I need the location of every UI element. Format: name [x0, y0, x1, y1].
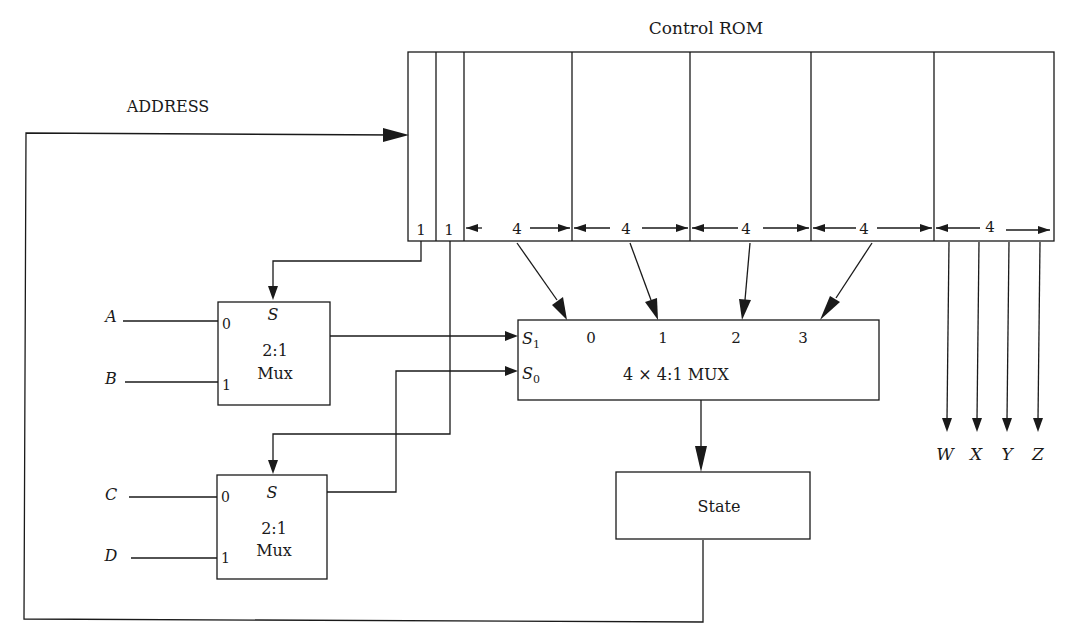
mux-top-in0-label: 0	[222, 316, 231, 332]
mux-top-type: 2:1	[262, 341, 288, 360]
mux-top-in1-label: 1	[222, 377, 231, 393]
field-width-5: 4	[741, 220, 751, 238]
outputs: W X Y Z	[936, 242, 1045, 464]
field-width-1b: 1	[444, 221, 454, 239]
mux-bottom-name: Mux	[256, 541, 292, 560]
control-rom-diagram: Control ROM ADDRESS 1 1 4 4 4	[0, 0, 1071, 637]
output-x-label: X	[968, 444, 983, 464]
mux-input-3: 3	[798, 329, 808, 347]
control-rom: 1 1 4 4 4 4 4	[408, 52, 1054, 241]
mux-4x4to1: S1 S0 0 1 2 3 4 × 4:1 MUX	[518, 320, 879, 400]
mux-bottom-in1-label: 1	[221, 550, 230, 566]
s0-wire	[327, 371, 508, 492]
mux-bottom-in0-label: 0	[221, 489, 230, 505]
mux-top-select-label: S	[268, 305, 279, 324]
field-width-6: 4	[859, 220, 869, 238]
big-mux-label: 4 × 4:1 MUX	[623, 365, 729, 384]
input-c-label: C	[105, 485, 117, 504]
mux-2to1-bottom: S 0 1 2:1 Mux	[217, 475, 327, 579]
mux-2to1-top: S 0 1 2:1 Mux	[218, 302, 330, 405]
input-b-label: B	[104, 369, 117, 388]
arrow-down-icon	[645, 298, 658, 320]
field-width-4: 4	[621, 220, 631, 238]
mux-bottom-select-label: S	[267, 483, 278, 502]
output-y-label: Y	[1001, 444, 1014, 464]
rom-title: Control ROM	[649, 18, 763, 38]
mux-input-0: 0	[586, 329, 596, 347]
mux-input-1: 1	[658, 329, 668, 347]
output-w-label: W	[936, 444, 955, 464]
select-wire-top	[273, 241, 421, 288]
arrow-down-icon	[820, 296, 840, 320]
arrow-right-icon	[505, 331, 518, 341]
address-arrow-icon	[383, 128, 409, 142]
field-width-7: 4	[985, 218, 995, 236]
arrow-down-icon	[942, 418, 952, 432]
input-a-label: A	[103, 307, 117, 326]
mux-top-name: Mux	[257, 364, 293, 383]
arrow-down-icon	[268, 460, 278, 474]
field-width-3: 4	[512, 220, 522, 238]
arrow-down-icon	[739, 299, 751, 320]
input-d-label: D	[104, 546, 118, 565]
arrow-down-icon	[552, 297, 567, 320]
output-z-label: Z	[1031, 444, 1045, 464]
field-width-1a: 1	[416, 221, 426, 239]
state-label: State	[698, 497, 741, 516]
mux-bottom-type: 2:1	[261, 519, 287, 538]
arrow-down-icon	[1033, 418, 1043, 432]
mux-input-2: 2	[731, 329, 741, 347]
arrow-down-icon	[1002, 418, 1012, 432]
arrow-down-icon	[695, 446, 707, 472]
arrow-right-icon	[505, 366, 518, 376]
arrow-down-icon	[268, 286, 278, 300]
address-label: ADDRESS	[126, 97, 210, 116]
arrow-down-icon	[972, 418, 982, 432]
